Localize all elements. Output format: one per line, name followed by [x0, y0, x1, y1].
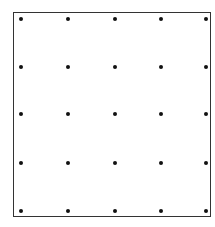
grid-dot — [113, 209, 117, 213]
grid-dot — [159, 17, 163, 21]
grid-dot — [66, 17, 70, 21]
grid-dot — [204, 112, 208, 116]
grid-dot — [204, 17, 208, 21]
grid-dot — [113, 161, 117, 165]
grid-dot — [19, 65, 23, 69]
grid-dot — [159, 161, 163, 165]
grid-dot — [66, 112, 70, 116]
grid-dot — [113, 112, 117, 116]
grid-dot — [66, 65, 70, 69]
grid-dot — [159, 112, 163, 116]
grid-dot — [66, 161, 70, 165]
grid-dot — [113, 17, 117, 21]
grid-dot — [19, 161, 23, 165]
grid-dot — [19, 112, 23, 116]
grid-frame — [13, 12, 211, 217]
grid-dot — [204, 161, 208, 165]
grid-dot — [19, 17, 23, 21]
grid-dot — [204, 65, 208, 69]
grid-dot — [113, 65, 117, 69]
grid-dot — [19, 209, 23, 213]
grid-dot — [66, 209, 70, 213]
grid-dot — [159, 65, 163, 69]
grid-dot — [204, 209, 208, 213]
grid-dot — [159, 209, 163, 213]
